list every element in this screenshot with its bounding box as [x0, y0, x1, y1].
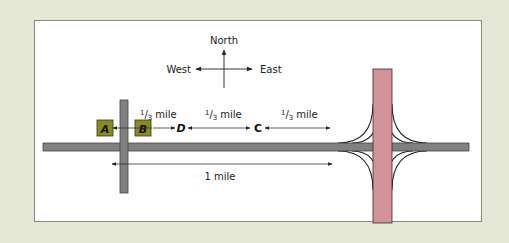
svg-text:1/3mile: 1/3mile — [205, 109, 242, 122]
east-west-road — [43, 143, 469, 151]
segment-label-3: 1/3mile — [281, 109, 318, 122]
compass-icon — [196, 50, 252, 88]
segment-label-2: 1/3mile — [205, 109, 242, 122]
road-diagram: North West East A B D C 1/3mile 1/3mile … — [0, 0, 509, 243]
label-b: B — [139, 123, 147, 136]
east-label: East — [260, 64, 282, 75]
highway — [373, 69, 392, 223]
cross-street — [120, 100, 128, 193]
one-mile-label: 1 mile — [205, 171, 236, 182]
north-label: North — [210, 35, 238, 46]
label-a: A — [100, 123, 110, 136]
label-d: D — [176, 122, 185, 135]
label-c: C — [254, 122, 262, 135]
west-label: West — [166, 64, 191, 75]
svg-text:1/3mile: 1/3mile — [281, 109, 318, 122]
